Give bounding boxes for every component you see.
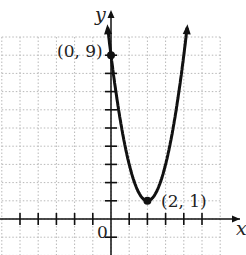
parabola-graph: x y 0 (0, 9) (2, 1): [0, 0, 246, 255]
point-label-0-9: (0, 9): [57, 41, 103, 61]
x-axis-label: x: [236, 217, 246, 239]
y-axis-label: y: [94, 3, 106, 25]
origin-label: 0: [97, 222, 108, 242]
axes: [0, 10, 240, 255]
point-label-2-1: (2, 1): [161, 191, 207, 211]
